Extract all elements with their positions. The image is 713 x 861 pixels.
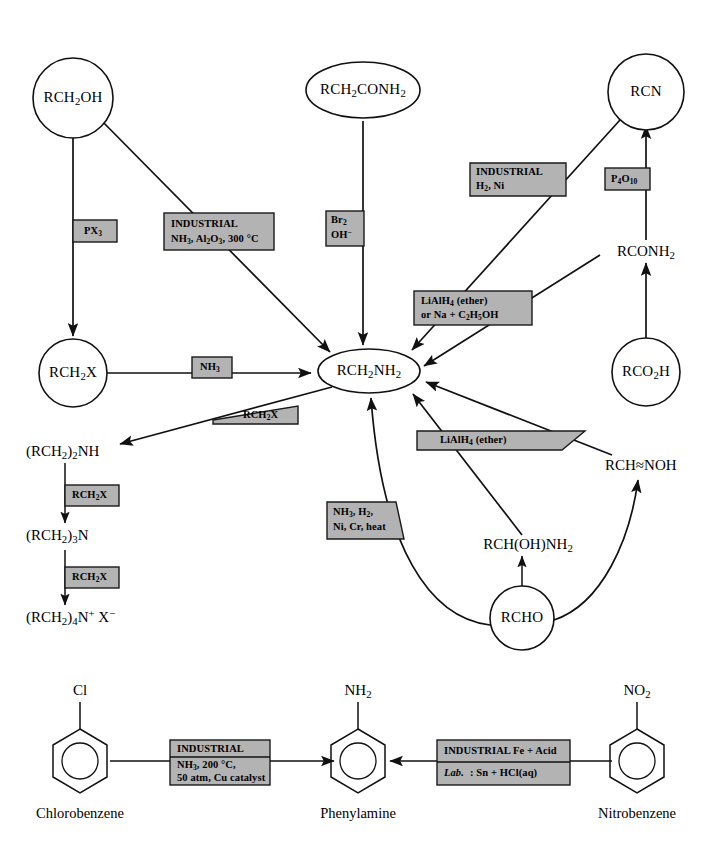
reagent-industrial-fe-acid-line1: INDUSTRIAL Fe + Acid <box>444 745 557 756</box>
reagent-industrial-h2-ni[interactable]: INDUSTRIAL H2, Ni <box>470 163 566 196</box>
substituent-nh2-label: NH2 <box>344 682 371 699</box>
reagent-industrial-fe-acid-line2-rest: : Sn + HCl(aq) <box>470 767 538 779</box>
reagent-px3[interactable]: PX3 <box>73 220 117 242</box>
node-rch2oh[interactable]: RCH2OH <box>33 58 113 138</box>
node-rcho-label: RCHO <box>501 609 543 625</box>
benzene-ring-left-aromatic-circle <box>62 743 98 779</box>
reagent-nh3-h2-ni-cr-line2: Ni, Cr, heat <box>333 521 386 532</box>
substituent-cl-label: Cl <box>73 682 87 698</box>
node-rcn[interactable]: RCN <box>608 54 684 130</box>
reagent-industrial-nh3-200c-line1: INDUSTRIAL <box>177 743 244 754</box>
reagent-nh3[interactable]: NH3 <box>192 357 232 378</box>
reagent-lialh4-or-na-line2: or Na + C2H5OH <box>421 309 498 322</box>
reagent-industrial-fe-acid[interactable]: INDUSTRIAL Fe + Acid Lab. : Sn + HCl(aq) <box>437 740 570 785</box>
reagent-industrial-h2-ni-line1: INDUSTRIAL <box>476 166 543 177</box>
node-rcn-label: RCN <box>630 83 661 99</box>
node-rconh2-label: RCONH2 <box>617 243 675 260</box>
node-tertiary-amine-label: (RCH2)3N <box>26 527 89 544</box>
reagent-rch2x-chain-1[interactable]: RCH2X <box>65 485 119 506</box>
node-rch2conh2[interactable]: RCH2CONH2 <box>306 62 420 118</box>
reagent-lialh4-ether-wedge-text: LiAlH4 (ether) <box>440 434 507 447</box>
node-rco2h[interactable]: RCO2H <box>612 338 680 406</box>
arrow-rch2nh2-to-secondary-amine <box>120 387 332 444</box>
reagent-industrial-nh3-al2o3-line2: NH3, Al2O3, 300 °C <box>171 233 259 246</box>
reagent-industrial-h2-ni-line2: H2, Ni <box>476 180 504 193</box>
benzene-ring-left <box>53 729 107 793</box>
reagent-p4o10[interactable]: P4O10 <box>605 168 650 190</box>
node-quaternary-salt-label: (RCH2)4N+ X− <box>26 607 115 626</box>
caption-nitrobenzene: Nitrobenzene <box>598 805 676 821</box>
reagent-br2-oh[interactable]: Br2 OH− <box>326 211 364 246</box>
node-oxime-label: RCH≈NOH <box>605 457 677 473</box>
node-rcho[interactable]: RCHO <box>490 586 554 650</box>
reagent-lialh4-or-na[interactable]: LiAlH4 (ether) or Na + C2H5OH <box>414 291 532 325</box>
caption-phenylamine: Phenylamine <box>320 805 396 821</box>
reagent-rch2x-chain-1-text: RCH2X <box>72 489 108 502</box>
reagent-industrial-nh3-200c-line2: NH3, 200 °C, <box>177 759 236 772</box>
reagent-industrial-nh3-200c-line3: 50 atm, Cu catalyst <box>177 772 266 783</box>
arrow-carbinolamine-to-rch2nh2 <box>413 394 522 535</box>
node-rch2x[interactable]: RCH2X <box>39 339 107 407</box>
reagent-industrial-nh3-al2o3-line1: INDUSTRIAL <box>171 218 238 229</box>
reagent-rch2x-chain-2-text: RCH2X <box>72 571 108 584</box>
node-rch2nh2-center[interactable]: RCH2NH2 <box>318 349 420 393</box>
node-secondary-amine-label: (RCH2)2NH <box>26 443 99 460</box>
benzene-ring-middle <box>331 729 385 793</box>
reagent-nh3-h2-ni-cr[interactable]: NH3, H2, Ni, Cr, heat <box>327 502 404 539</box>
reagent-lialh4-ether-wedge[interactable]: LiAlH4 (ether) <box>417 431 585 450</box>
structure-phenylamine[interactable]: NH2 Phenylamine <box>320 682 396 821</box>
structure-chlorobenzene[interactable]: Cl Chlorobenzene <box>36 682 124 821</box>
node-rch2oh-label: RCH2OH <box>43 89 102 106</box>
node-rco2h-label: RCO2H <box>622 363 670 380</box>
lower-scheme: Cl Chlorobenzene INDUSTRIAL NH3, 200 °C,… <box>36 682 676 821</box>
reagent-rch2x-wedge-text: RCH2X <box>243 409 279 422</box>
reagent-industrial-nh3-al2o3[interactable]: INDUSTRIAL NH3, Al2O3, 300 °C <box>164 213 274 250</box>
substituent-no2-label: NO2 <box>623 682 650 699</box>
node-rch2x-label: RCH2X <box>49 364 97 381</box>
structure-nitrobenzene[interactable]: NO2 Nitrobenzene <box>598 682 676 821</box>
node-rch2conh2-label: RCH2CONH2 <box>320 81 406 98</box>
reagent-rch2x-chain-2[interactable]: RCH2X <box>65 567 119 588</box>
caption-chlorobenzene: Chlorobenzene <box>36 805 124 821</box>
node-carbinolamine-label: RCH(OH)NH2 <box>483 536 573 553</box>
benzene-ring-right-aromatic-circle <box>619 743 655 779</box>
benzene-ring-right <box>610 729 664 793</box>
reaction-scheme-svg: RCH2OH RCH2X RCH2CONH2 RCN RCONH2 RCO2H … <box>0 0 713 861</box>
reagent-lialh4-or-na-line1: LiAlH4 (ether) <box>421 295 488 308</box>
reaction-map-canvas: RCH2OH RCH2X RCH2CONH2 RCN RCONH2 RCO2H … <box>0 0 713 861</box>
benzene-ring-middle-aromatic-circle <box>340 743 376 779</box>
reagent-industrial-fe-acid-line2-italic: Lab. <box>443 767 464 778</box>
reagent-industrial-nh3-200c[interactable]: INDUSTRIAL NH3, 200 °C, 50 atm, Cu catal… <box>170 740 270 785</box>
